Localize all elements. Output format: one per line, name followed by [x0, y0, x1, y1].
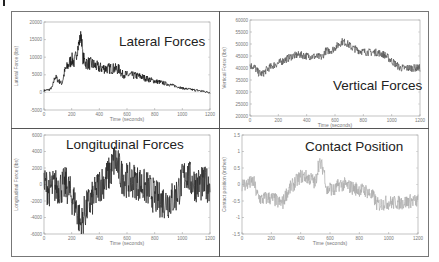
x-tick-label: 0: [43, 112, 46, 117]
x-axis-label: Time (seconds): [318, 122, 353, 128]
y-tick-label: 35000: [235, 78, 248, 83]
x-axis-label: Time (seconds): [313, 240, 348, 246]
y-tick-label: 1.5: [234, 133, 241, 138]
y-tick-label: -0.5: [232, 199, 240, 204]
y-tick-label: 0: [237, 182, 240, 187]
y-tick-label: 0.5: [234, 166, 241, 171]
x-tick-label: 1200: [205, 236, 216, 241]
x-tick-label: 1000: [177, 236, 188, 241]
y-tick-label: 1: [237, 149, 240, 154]
x-tick-label: 200: [268, 236, 276, 241]
x-tick-label: 800: [360, 118, 368, 123]
x-tick-label: 400: [303, 118, 311, 123]
y-tick-label: 2000: [32, 166, 43, 171]
lateral-forces-chart: 20000150001000050000-5000020040060080010…: [12, 12, 219, 128]
x-tick-label: 1200: [415, 118, 426, 123]
y-tick-label: -1.5: [232, 232, 240, 237]
x-axis-label: Time (seconds): [110, 116, 145, 122]
vertical-forces-plot: 6000055000500004500040000350003000025000…: [220, 12, 428, 128]
x-tick-label: 0: [241, 236, 244, 241]
y-axis-label: Vertical Force (lbs): [221, 47, 227, 89]
y-tick-label: 30000: [235, 90, 248, 95]
plot-area-frame: [250, 20, 420, 116]
y-tick-label: 0: [39, 90, 42, 95]
y-tick-label: -1: [236, 215, 240, 220]
y-axis-label: Contact position (inches): [221, 157, 227, 212]
y-tick-label: -6000: [30, 232, 42, 237]
y-tick-label: 10000: [29, 55, 42, 60]
y-tick-label: 20000: [29, 20, 42, 25]
y-tick-label: 40000: [235, 66, 248, 71]
x-tick-label: 800: [151, 236, 159, 241]
y-tick-label: 6000: [32, 133, 43, 138]
lateral-forces-plot: 20000150001000050000-5000020040060080010…: [12, 12, 219, 128]
y-axis-label: Longitudinal Force (lbs): [13, 158, 19, 211]
y-tick-label: 60000: [235, 18, 248, 23]
y-tick-label: 50000: [235, 42, 248, 47]
signal-line: [242, 158, 418, 210]
y-tick-label: -4000: [30, 215, 42, 220]
y-tick-label: 15000: [29, 37, 42, 42]
x-tick-label: 400: [96, 112, 104, 117]
x-tick-label: 0: [249, 118, 252, 123]
x-axis-label: Time (seconds): [110, 240, 145, 246]
lateral-forces-title: Lateral Forces: [119, 34, 205, 49]
x-tick-label: 200: [275, 118, 283, 123]
x-tick-label: 400: [96, 236, 104, 241]
x-tick-label: 1200: [205, 112, 216, 117]
y-tick-label: 45000: [235, 54, 248, 59]
x-tick-label: 400: [297, 236, 305, 241]
y-tick-label: 20000: [235, 114, 248, 119]
vertical-forces-chart: 6000055000500004500040000350003000025000…: [220, 12, 428, 128]
y-tick-label: 4000: [32, 149, 43, 154]
y-tick-label: 5000: [32, 72, 43, 77]
x-tick-label: 800: [356, 236, 364, 241]
x-tick-label: 1000: [384, 236, 395, 241]
x-tick-label: 200: [68, 236, 76, 241]
y-tick-label: 25000: [235, 102, 248, 107]
x-tick-label: 1000: [387, 118, 398, 123]
x-tick-label: 200: [68, 112, 76, 117]
x-tick-label: 1200: [413, 236, 424, 241]
contact-position-chart: 1.510.50-0.5-1-1.5020040060080010001200T…: [220, 129, 428, 256]
contact-position-title: Contact Position: [305, 139, 403, 154]
x-tick-label: 800: [151, 112, 159, 117]
y-tick-label: -5000: [30, 108, 42, 113]
y-tick-label: 0: [39, 182, 42, 187]
vertical-forces-title: Vertical Forces: [333, 78, 422, 93]
longitudinal-forces-title: Longitudinal Forces: [66, 137, 184, 152]
longitudinal-forces-chart: 6000400020000-2000-4000-6000020040060080…: [12, 129, 219, 256]
y-axis-label: Lateral Force (lbs): [13, 45, 19, 86]
x-tick-label: 1000: [177, 112, 188, 117]
signal-line: [250, 38, 420, 76]
y-tick-label: -2000: [30, 199, 42, 204]
x-tick-label: 0: [43, 236, 46, 241]
y-tick-label: 55000: [235, 30, 248, 35]
signal-line: [44, 147, 210, 234]
corner-mark: [3, 0, 5, 6]
